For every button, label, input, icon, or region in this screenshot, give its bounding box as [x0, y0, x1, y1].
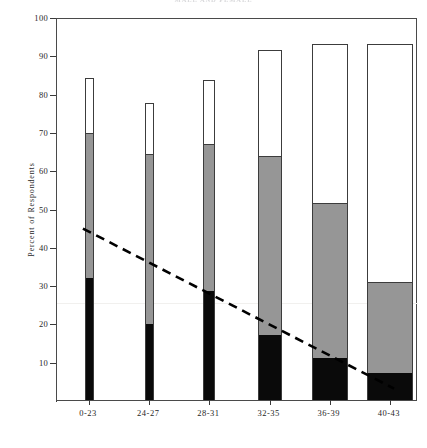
bar-24-27 [145, 103, 154, 400]
y-axis-tick-label: 80 [39, 91, 48, 100]
y-axis-tick-label: 30 [39, 282, 48, 291]
bar-segment-black [368, 373, 412, 400]
y-axis-tick-label: 20 [39, 320, 48, 329]
bar-segment-white [368, 45, 412, 282]
chart-header-clipped: MALE AND FEMALE [0, 0, 427, 10]
bar-segment-white [259, 51, 281, 156]
y-axis-tick-label: 50 [39, 206, 48, 215]
y-axis-tick-label: 70 [39, 129, 48, 138]
bar-segment-white [146, 104, 153, 154]
plot-area [56, 18, 417, 401]
bar-segment-gray [368, 282, 412, 374]
y-axis-tick-label: 10 [39, 359, 48, 368]
x-axis-tick-label: 36-39 [299, 409, 359, 418]
bar-28-31 [203, 80, 215, 400]
bar-0-23 [85, 78, 94, 400]
y-axis-title: Percent of Respondents [24, 18, 38, 401]
bar-segment-white [86, 79, 93, 132]
bar-segment-black [259, 335, 281, 400]
trend-line [57, 19, 416, 400]
bar-segment-gray [204, 144, 214, 291]
x-axis-tick-label: 0-23 [58, 409, 118, 418]
chart-header-text: MALE AND FEMALE [175, 0, 253, 3]
x-axis-tick-label: 40-43 [359, 409, 419, 418]
y-axis-title-container: Percent of Respondents [8, 18, 22, 401]
y-axis-tick-label: 90 [39, 52, 48, 61]
x-axis-tick-label: 24-27 [118, 409, 178, 418]
x-axis-tick [270, 400, 271, 405]
x-axis-tick [330, 400, 331, 405]
bar-segment-gray [313, 203, 347, 358]
x-axis-tick-label: 28-31 [178, 409, 238, 418]
bar-segment-gray [146, 154, 153, 324]
bar-segment-black [86, 278, 93, 400]
bar-segment-gray [86, 133, 93, 278]
x-axis-tick-label: 32-35 [239, 409, 299, 418]
bar-segment-gray [259, 156, 281, 336]
bar-segment-black [313, 358, 347, 400]
scan-artifact [57, 303, 418, 304]
x-axis-tick [390, 400, 391, 405]
y-axis-tick-label: 40 [39, 244, 48, 253]
bar-segment-white [313, 45, 347, 204]
x-axis-tick [89, 400, 90, 405]
bar-segment-white [204, 81, 214, 144]
y-axis-tick-label: 100 [34, 14, 48, 23]
bar-segment-black [146, 324, 153, 400]
x-axis-tick [149, 400, 150, 405]
bar-36-39 [312, 44, 348, 400]
y-axis-tick-label: 60 [39, 167, 48, 176]
bar-segment-black [204, 291, 214, 400]
x-axis-tick [209, 400, 210, 405]
bar-32-35 [258, 50, 282, 400]
bar-40-43 [367, 44, 413, 400]
